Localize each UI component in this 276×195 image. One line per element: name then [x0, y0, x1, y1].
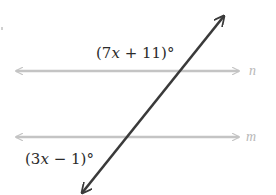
scan-speck [1, 27, 3, 30]
angle-label-bottom: (3x − 1)° [25, 150, 94, 168]
angle-bottom-suffix: − 1)° [49, 150, 94, 168]
transversal-line [82, 16, 224, 193]
parallel-lines-diagram: n m (7x + 11)° (3x − 1)° [0, 0, 276, 195]
angle-bottom-prefix: (3 [25, 150, 40, 168]
angle-top-suffix: + 11)° [120, 44, 175, 62]
line-m-label: m [246, 129, 256, 144]
line-n-label: n [249, 63, 256, 78]
angle-label-top: (7x + 11)° [96, 44, 174, 62]
angle-top-prefix: (7 [96, 44, 111, 62]
